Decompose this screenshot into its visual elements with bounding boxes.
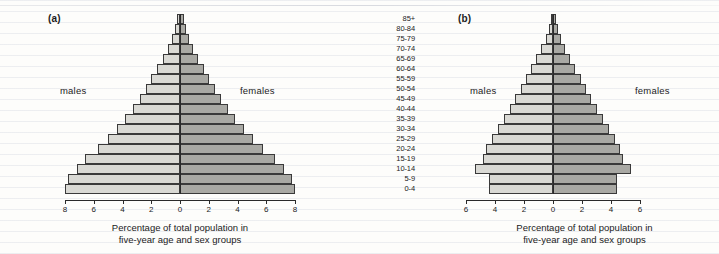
- x-axis-tick: [94, 200, 95, 204]
- male-bar: [85, 154, 180, 164]
- male-bar: [168, 44, 180, 54]
- pyramid-row: [450, 144, 719, 154]
- female-bar: [180, 174, 292, 184]
- x-axis-tick: [466, 200, 467, 204]
- pyramid-row: [450, 54, 719, 64]
- pyramid-row: [0, 114, 355, 124]
- female-bar: [180, 134, 253, 144]
- age-group-label: 65-69: [355, 55, 415, 63]
- age-group-label: 45-49: [355, 95, 415, 103]
- population-pyramid-figure: (a) males females 864202468 Percentage o…: [0, 0, 719, 254]
- female-bar: [553, 164, 631, 174]
- x-axis-tick: [524, 200, 525, 204]
- x-axis-tick-label: 0: [173, 205, 187, 214]
- male-bar: [475, 164, 553, 174]
- pyramid-row: [450, 74, 719, 84]
- panel-b-caption-line1: Percentage of total population in: [450, 222, 719, 234]
- age-group-label: 85+: [355, 15, 415, 23]
- x-axis-tick-label: 2: [202, 205, 216, 214]
- pyramid-row: [0, 174, 355, 184]
- male-bar: [151, 74, 180, 84]
- female-bar: [180, 64, 204, 74]
- age-group-label: 0-4: [355, 185, 415, 193]
- male-bar: [521, 84, 553, 94]
- panel-b-caption-line2: five-year age and sex groups: [450, 234, 719, 246]
- x-axis-tick: [266, 200, 267, 204]
- pyramid-row: [450, 44, 719, 54]
- pyramid-row: [0, 154, 355, 164]
- pyramid-row: [450, 14, 719, 24]
- x-axis-tick-label: 6: [633, 205, 647, 214]
- male-bar: [146, 84, 181, 94]
- female-bar: [553, 54, 570, 64]
- x-axis-tick-label: 6: [459, 205, 473, 214]
- male-bar: [77, 164, 181, 174]
- male-bar: [515, 94, 553, 104]
- x-axis-tick: [495, 200, 496, 204]
- age-group-label: 25-29: [355, 135, 415, 143]
- male-bar: [492, 134, 553, 144]
- female-bar: [553, 84, 586, 94]
- pyramid-row: [0, 54, 355, 64]
- male-bar: [172, 34, 180, 44]
- pyramid-row: [0, 144, 355, 154]
- female-bar: [553, 64, 575, 74]
- pyramid-row: [450, 164, 719, 174]
- x-axis-tick-label: 2: [144, 205, 158, 214]
- x-axis-tick-label: 4: [116, 205, 130, 214]
- female-bar: [180, 184, 295, 194]
- pyramid-row: [450, 134, 719, 144]
- age-group-label: 30-34: [355, 125, 415, 133]
- pyramid-row: [450, 24, 719, 34]
- x-axis-tick-label: 0: [546, 205, 560, 214]
- panel-a-caption-line1: Percentage of total population in: [35, 222, 325, 234]
- male-bar: [504, 114, 553, 124]
- female-bar: [180, 54, 198, 64]
- x-axis-tick: [295, 200, 296, 204]
- female-bar: [180, 154, 275, 164]
- pyramid-row: [0, 34, 355, 44]
- x-axis-tick: [553, 200, 554, 204]
- female-bar: [180, 164, 284, 174]
- age-group-label: 75-79: [355, 35, 415, 43]
- female-bar: [180, 144, 263, 154]
- age-group-label: 15-19: [355, 155, 415, 163]
- x-axis-tick-label: 2: [575, 205, 589, 214]
- x-axis-tick: [123, 200, 124, 204]
- age-group-label: 60-64: [355, 65, 415, 73]
- panel-b-caption: Percentage of total population in five-y…: [450, 222, 719, 245]
- female-bar: [180, 94, 221, 104]
- pyramid-row: [450, 114, 719, 124]
- female-bar: [553, 74, 581, 84]
- pyramid-row: [0, 84, 355, 94]
- female-bar: [180, 44, 193, 54]
- x-axis-tick: [582, 200, 583, 204]
- pyramid-row: [0, 14, 355, 24]
- pyramid-row: [450, 124, 719, 134]
- female-bar: [553, 134, 615, 144]
- age-group-label: 35-39: [355, 115, 415, 123]
- pyramid-row: [0, 184, 355, 194]
- male-bar: [68, 174, 180, 184]
- male-bar: [125, 114, 180, 124]
- male-bar: [117, 124, 180, 134]
- pyramid-row: [0, 104, 355, 114]
- age-group-label: 70-74: [355, 45, 415, 53]
- female-bar: [553, 104, 597, 114]
- x-axis-tick-label: 6: [87, 205, 101, 214]
- male-bar: [510, 104, 554, 114]
- male-bar: [489, 174, 553, 184]
- pyramid-row: [0, 94, 355, 104]
- x-axis-tick-label: 4: [488, 205, 502, 214]
- female-bar: [553, 174, 617, 184]
- panel-a: (a) males females 864202468 Percentage o…: [0, 0, 355, 254]
- female-bar: [180, 34, 189, 44]
- male-bar: [157, 64, 180, 74]
- center-axis-line: [180, 14, 181, 194]
- male-bar: [498, 124, 553, 134]
- male-bar: [526, 74, 553, 84]
- pyramid-row: [0, 164, 355, 174]
- x-axis-tick-label: 4: [604, 205, 618, 214]
- male-bar: [140, 94, 180, 104]
- female-bar: [553, 94, 591, 104]
